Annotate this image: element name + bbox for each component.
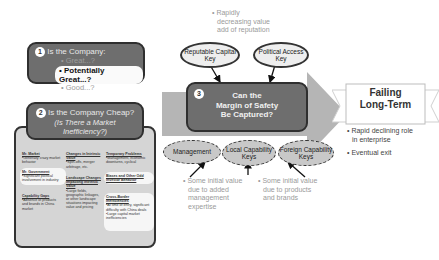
question-box-1: 1 Is the Company: • Great...? • Potentia… <box>27 42 145 84</box>
cell-cross-border: Cross-Border Inefficiencies•At time of e… <box>104 193 154 231</box>
reputation-note: • Rapidly decreasing value add of reputa… <box>212 9 302 35</box>
result-bullet: • Eventual exit <box>347 149 439 158</box>
management-note: • Some initial value due to added manage… <box>183 177 253 211</box>
cell-mr-market: Mr. Market•Generally crazy market behavi… <box>22 152 62 165</box>
key-local-capability: Local CapabilityKeys <box>222 140 276 166</box>
products-note: • Some initial value due to products and… <box>258 177 328 203</box>
key-management: Management <box>163 140 221 164</box>
box1-title: Is the Company: <box>47 47 105 56</box>
question-box-2: 2 Is the Company Cheap? (Is There a Mark… <box>26 102 144 140</box>
box2-subtitle: (Is There a Market Inefficiency?) <box>33 118 137 136</box>
key-foreign-capability: Foreign CapabilityKeys <box>278 140 334 166</box>
cell-capability-gaps: Capability Gaps•Absence of products and … <box>22 194 62 211</box>
result-bullets: • Rapid declining role in enterprise • E… <box>347 127 439 158</box>
key-political-access: Political AccessKey <box>253 42 309 68</box>
option-potentially-great: • Potentially Great...? <box>55 66 143 84</box>
step-number-3: 3 <box>194 89 204 99</box>
cell-landscape-changes: Landscape Changes Impacting Intrinsic Va… <box>66 176 102 210</box>
cell-changes-intrinsic-value: Changes in Intrinsic Value•Spin-offs, me… <box>66 152 104 169</box>
cell-investor-biases: Biases and Other Odd Investor Behavior <box>104 172 154 184</box>
cell-mr-government: Mr. Government•Significant political inv… <box>20 168 66 185</box>
option-good: • Good...? <box>35 84 137 93</box>
cell-temporary-problems: Temporary Problems•Management, economic … <box>106 152 150 165</box>
key-reputable-capital: Reputable CapitalKey <box>180 42 240 68</box>
result-banner: Failing Long-Term <box>346 87 425 111</box>
option-great: • Great...? <box>35 57 137 66</box>
result-bullet: • Rapid declining role <box>347 127 439 136</box>
box2-title: Is the Company Cheap? <box>48 108 134 117</box>
step-number-1: 1 <box>35 47 45 57</box>
step-number-2: 2 <box>36 108 46 118</box>
question-box-3: 3 Can the Margin of Safety Be Captured? <box>186 82 308 132</box>
